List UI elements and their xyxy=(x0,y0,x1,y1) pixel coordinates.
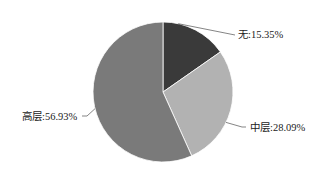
pie-chart: 无:15.35% 中层:28.09% 高层:56.93% xyxy=(0,0,321,172)
label-middle: 中层:28.09% xyxy=(250,121,306,133)
label-none: 无:15.35% xyxy=(238,29,284,40)
leader-line xyxy=(226,122,246,127)
pie-slices xyxy=(93,22,233,162)
leader-line xyxy=(82,109,95,116)
label-senior: 高层:56.93% xyxy=(22,110,78,122)
